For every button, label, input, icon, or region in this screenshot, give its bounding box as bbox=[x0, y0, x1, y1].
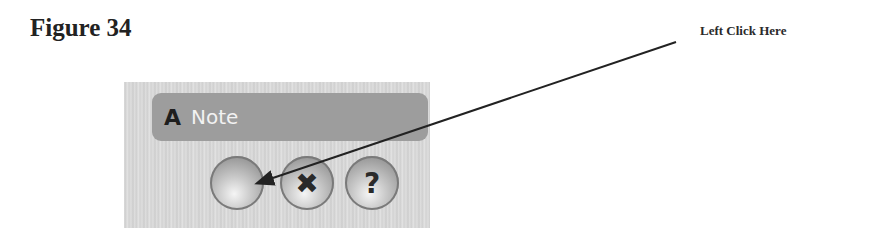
pointer-arrow bbox=[0, 0, 885, 238]
